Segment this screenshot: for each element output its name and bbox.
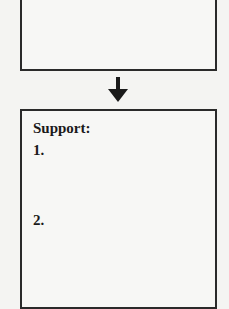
support-box: Support: 1. 2. [20,109,217,309]
support-heading: Support: [33,121,91,136]
support-item-2-number: 2. [33,213,44,228]
support-item-1-number: 1. [33,143,44,158]
claim-box [20,0,217,71]
arrow-down-icon [108,77,128,103]
